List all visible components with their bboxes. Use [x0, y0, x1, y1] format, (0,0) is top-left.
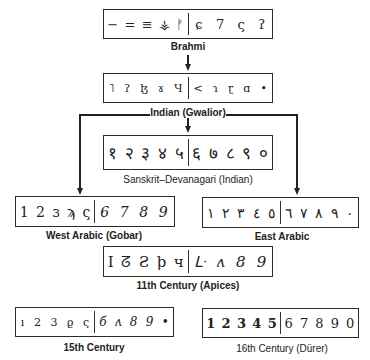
glyph: ı: [21, 316, 25, 329]
glyph: •: [260, 82, 267, 95]
glyph: 6: [285, 316, 293, 331]
glyph: ٨: [315, 205, 323, 221]
sixteenth-century-label: 16th Century (Dürer): [236, 343, 328, 354]
glyph: ʔ: [258, 17, 265, 32]
glyph: ϡ: [67, 204, 75, 220]
glyph: I: [108, 253, 114, 271]
glyph: ٣: [237, 205, 245, 221]
glyph: ᒷ: [194, 253, 205, 271]
glyph: 9: [146, 315, 154, 329]
east-arabic-digits-6-0: ٦ ٧ ٨ ٩ ٠: [281, 198, 358, 227]
glyph: −: [107, 17, 118, 32]
glyph: ٦: [285, 205, 293, 221]
glyph: 1: [206, 316, 215, 331]
west-arabic-digits-6-9: 6 7 8 9: [95, 197, 173, 226]
glyph: 4: [252, 316, 261, 331]
east-arabic-box: ١ ٢ ٣ ٤ ٥ ٦ ٧ ٨ ٩ ٠: [202, 197, 359, 228]
gwalior-box: ˥ ʔ ɮ ɤ Ч < ɿ ɽ ɑ •: [103, 73, 273, 103]
glyph: 9: [159, 204, 168, 220]
fifteenth-digits-6-0: б ʌ 8 9 •: [95, 308, 173, 336]
arrow-down-icon: [185, 126, 191, 133]
west-arabic-label: West Arabic (Gobar): [46, 230, 142, 241]
glyph: 2: [222, 316, 231, 331]
glyph: ४: [158, 141, 167, 164]
glyph: 1: [20, 204, 29, 220]
glyph: 8: [236, 253, 246, 271]
glyph: २: [125, 141, 134, 164]
glyph: ٧: [300, 205, 308, 221]
brahmi-digits-1-5: − = ≡ ⚶ ᚠ: [104, 10, 188, 38]
branch-right-vertical: [296, 114, 298, 190]
glyph: ς: [82, 204, 90, 220]
glyph: б: [99, 315, 106, 329]
glyph: 3: [237, 316, 246, 331]
glyph: 9: [257, 253, 267, 271]
glyph: 7: [216, 17, 224, 32]
fifteenth-digits-1-5: ı 2 3 ϱ ς: [16, 308, 94, 336]
glyph: ५: [175, 141, 184, 164]
apices-digits-6-9: ᒷ ʌ 8 9: [189, 247, 273, 276]
glyph: ɿ: [213, 82, 218, 95]
glyph: ८: [226, 141, 235, 164]
branch-left-horizontal: [79, 114, 150, 116]
glyph: ०: [259, 141, 268, 164]
branch-left-vertical: [79, 114, 81, 190]
glyph: 5: [268, 316, 277, 331]
glyph: 3: [50, 316, 57, 329]
arrow-down-icon: [294, 188, 300, 195]
glyph: =: [124, 17, 135, 32]
glyph: 9: [331, 316, 339, 331]
glyph: 8: [130, 315, 138, 329]
glyph: ٤: [253, 205, 261, 221]
glyph: ٩: [331, 205, 339, 221]
glyph: Ƨ: [139, 253, 149, 271]
glyph: 2: [36, 204, 45, 220]
apices-digits-1-5: I ᘔ Ƨ ϸ ч: [104, 247, 188, 276]
glyph: ٥: [268, 205, 276, 221]
glyph: ७: [209, 141, 218, 164]
sixteenth-digits-6-0: 6 7 8 9 0: [281, 309, 358, 337]
glyph: ६: [192, 141, 201, 164]
glyph: ς: [83, 316, 89, 329]
glyph: ɮ: [140, 82, 148, 95]
sanskrit-box: १ २ ३ ४ ५ ६ ७ ८ ९ ०: [103, 135, 273, 170]
glyph: ς: [238, 17, 245, 32]
glyph: ʔ: [124, 82, 130, 95]
glyph: ʌ: [115, 315, 122, 329]
glyph: Ч: [174, 82, 183, 95]
glyph: ɽ: [228, 82, 233, 95]
glyph: 0: [346, 316, 354, 331]
glyph: 7: [300, 316, 308, 331]
west-arabic-box: 1 2 ɜ ϡ ς 6 7 8 9: [15, 196, 175, 227]
sanskrit-digits-6-0: ६ ७ ८ ९ ०: [189, 136, 273, 169]
glyph: •: [162, 315, 169, 329]
glyph: ɜ: [52, 204, 59, 220]
glyph: ١: [207, 205, 215, 221]
glyph: ϱ: [67, 316, 73, 329]
glyph: ३: [141, 141, 150, 164]
glyph: ч: [174, 253, 184, 271]
apices-label: 11th Century (Apices): [137, 280, 240, 291]
glyph: ϸ: [157, 253, 167, 271]
glyph: ɕ: [195, 17, 202, 32]
glyph: ɑ: [243, 82, 250, 95]
glyph: <: [194, 82, 203, 95]
glyph: 7: [120, 204, 129, 220]
glyph: ʌ: [216, 253, 224, 271]
arrow-down-icon: [77, 188, 83, 195]
glyph: 2: [34, 316, 41, 329]
glyph: 6: [100, 204, 109, 220]
branch-right-horizontal: [226, 114, 297, 116]
glyph: ˥: [109, 82, 114, 95]
gwalior-label: Indian (Gwalior): [150, 107, 226, 118]
gwalior-digits-1-5: ˥ ʔ ɮ ɤ Ч: [104, 74, 188, 102]
east-arabic-digits-1-5: ١ ٢ ٣ ٤ ٥: [203, 198, 280, 227]
arrow-down-icon: [185, 64, 191, 71]
sanskrit-label: Sanskrit–Devanagari (Indian): [123, 174, 253, 185]
brahmi-label: Brahmi: [171, 41, 205, 52]
sixteenth-digits-1-5: 1 2 3 4 5: [203, 309, 280, 337]
glyph: ᚠ: [176, 17, 184, 32]
glyph: 8: [315, 316, 323, 331]
sixteenth-century-box: 1 2 3 4 5 6 7 8 9 0: [202, 308, 359, 338]
glyph: १: [108, 141, 117, 164]
